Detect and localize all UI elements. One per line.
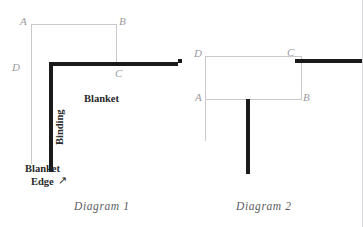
diagram-canvas: A B D C Binding Blanket Blanket Edge ↗ D…: [0, 0, 363, 227]
diagram2-thick-horizontal-stub: [178, 59, 182, 63]
diagram2-thin-line-a-down: [205, 99, 206, 141]
diagram1-thin-line-b-to-c: [116, 24, 117, 63]
diagram2-label-a: A: [195, 92, 202, 103]
diagram1-blanket-annotation: Blanket: [84, 92, 119, 105]
diagram2-thin-line-ab: [205, 99, 301, 100]
diagram1-label-d: D: [12, 62, 20, 73]
diagram1-binding-annotation: Binding: [53, 109, 66, 145]
diagram1-thin-line-a-to-edge: [31, 24, 32, 164]
diagram2-thin-line-da: [205, 56, 206, 100]
diagram1-thin-line-ab: [31, 24, 117, 25]
diagram1-label-a: A: [20, 16, 27, 27]
diagram1-caption: Diagram 1: [74, 200, 130, 212]
diagram2-thick-vertical-binding: [246, 99, 250, 174]
diagram2-label-d: D: [194, 48, 202, 59]
diagram1-blanket-edge-line2: Edge: [31, 175, 54, 188]
diagram2-label-b: B: [303, 92, 310, 103]
diagram2-caption: Diagram 2: [236, 200, 292, 212]
diagram1-label-b: B: [119, 16, 126, 27]
diagram1-blanket-edge-arrow-icon: ↗: [58, 175, 67, 186]
diagram2-thick-horizontal-binding: [295, 59, 363, 63]
diagram1-label-c: C: [115, 68, 123, 79]
diagram2-label-c: C: [287, 47, 295, 58]
diagram1-thick-horizontal-binding: [49, 62, 178, 66]
diagram1-blanket-edge-line1: Blanket: [25, 162, 60, 175]
